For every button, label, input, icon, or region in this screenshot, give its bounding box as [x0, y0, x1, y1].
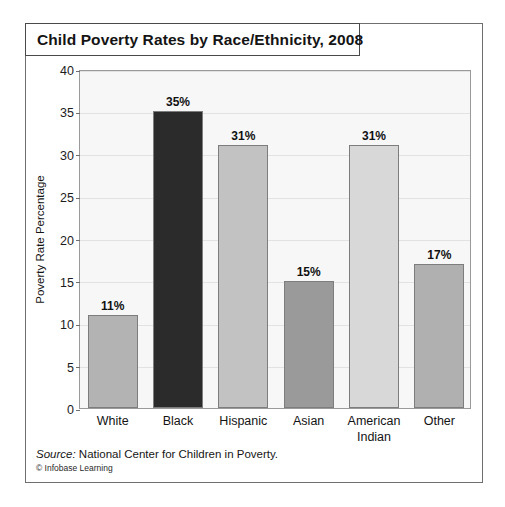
gridline: [80, 240, 470, 241]
bar-american-indian: 31%AmericanIndian: [349, 145, 399, 408]
gridline: [80, 325, 470, 326]
bar-asian: 15%Asian: [284, 281, 334, 408]
y-tick-mark: [76, 155, 80, 156]
y-tick-label: 5: [67, 361, 74, 375]
bar-value-label: 15%: [297, 265, 321, 279]
gridline: [80, 155, 470, 156]
gridline: [80, 71, 470, 72]
gridline: [80, 113, 470, 114]
y-tick-label: 40: [60, 64, 74, 78]
source-label: Source:: [36, 448, 76, 460]
y-tick-mark: [76, 282, 80, 283]
gridline: [80, 367, 470, 368]
bar-hispanic: 31%Hispanic: [218, 145, 268, 408]
source-text: National Center for Children in Poverty.: [76, 448, 278, 460]
y-tick-mark: [76, 240, 80, 241]
y-tick-label: 25: [60, 191, 74, 205]
y-tick-label: 35: [60, 106, 74, 120]
gridline: [80, 282, 470, 283]
bar-white: 11%White: [88, 315, 138, 408]
bar-black: 35%Black: [153, 111, 203, 408]
y-tick-mark: [76, 198, 80, 199]
y-tick-mark: [76, 410, 80, 411]
chart-title-box: Child Poverty Rates by Race/Ethnicity, 2…: [25, 23, 360, 56]
y-tick-mark: [76, 325, 80, 326]
chart-plot-area: 051015202530354011%White35%Black31%Hispa…: [79, 70, 471, 409]
bar-value-label: 11%: [101, 299, 124, 313]
bar-value-label: 35%: [166, 95, 190, 109]
chart-plot-inner: 051015202530354011%White35%Black31%Hispa…: [80, 71, 470, 408]
y-tick-mark: [76, 71, 80, 72]
y-tick-mark: [76, 367, 80, 368]
page-title: Child Poverty Rates by Race/Ethnicity, 2…: [37, 31, 363, 49]
y-tick-label: 15: [60, 276, 74, 290]
bar-value-label: 31%: [362, 129, 386, 143]
bar-value-label: 17%: [427, 248, 451, 262]
y-axis-title: Poverty Rate Percentage: [31, 70, 49, 409]
y-tick-label: 20: [60, 234, 74, 248]
bar-other: 17%Other: [414, 264, 464, 408]
chart-footer: Source: National Center for Children in …: [36, 448, 456, 473]
copyright-notice: © Infobase Learning: [36, 463, 456, 473]
y-tick-mark: [76, 113, 80, 114]
gridline: [80, 198, 470, 199]
y-tick-label: 30: [60, 149, 74, 163]
bar-value-label: 31%: [231, 129, 255, 143]
source-line: Source: National Center for Children in …: [36, 448, 456, 460]
y-tick-label: 10: [60, 318, 74, 332]
x-tick-label: Other: [396, 414, 482, 430]
